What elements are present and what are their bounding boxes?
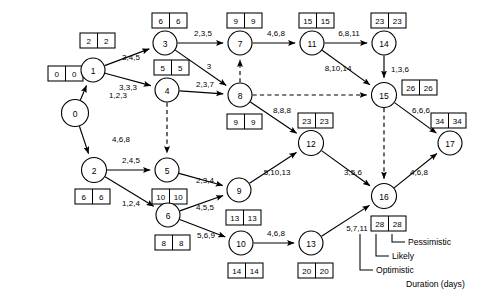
edge-label: 1,3,6 xyxy=(391,65,409,74)
node-label: 0 xyxy=(73,109,78,119)
edge-label: 2,3,4 xyxy=(196,176,214,185)
earliest-time: 2 xyxy=(87,37,92,46)
earliest-time: 26 xyxy=(406,84,415,93)
node-11[interactable]: 11 xyxy=(300,31,324,55)
edge-label: 8,10,14 xyxy=(325,64,352,73)
node-label: 13 xyxy=(306,239,316,249)
node-6[interactable]: 6 xyxy=(156,203,180,227)
edge-label: 6,8,11 xyxy=(338,29,360,38)
time-box-node-12: 2323 xyxy=(298,113,333,128)
time-box-node-4: 55 xyxy=(154,60,189,75)
edge-label: 2,3,7 xyxy=(196,80,214,89)
pert-network-diagram: 1,2,34,6,83,4,53,3,32,3,532,3,78,8,84,6,… xyxy=(0,0,478,294)
node-label: 2 xyxy=(92,166,97,176)
node-label: 7 xyxy=(238,39,243,49)
earliest-time: 9 xyxy=(234,118,239,127)
edge-label: 3,3,3 xyxy=(119,83,137,92)
time-box-node-3: 66 xyxy=(152,13,187,28)
time-box-node-1: 22 xyxy=(80,33,115,48)
node-12[interactable]: 12 xyxy=(299,131,324,156)
time-box-node-13: 2020 xyxy=(298,263,333,278)
earliest-time: 5 xyxy=(161,64,166,73)
earliest-time: 6 xyxy=(82,193,87,202)
time-box-node-2: 66 xyxy=(75,189,110,204)
edge-label: 3 xyxy=(207,62,212,71)
edge-label: 2,3,5 xyxy=(194,29,212,38)
node-2[interactable]: 2 xyxy=(82,158,107,183)
latest-time: 34 xyxy=(453,117,462,126)
legend-leader-0 xyxy=(392,234,405,242)
edge-label: 8,8,8 xyxy=(273,106,291,115)
time-box-node-14: 2323 xyxy=(371,13,406,28)
node-13[interactable]: 13 xyxy=(299,231,323,255)
edge-label: 2,4,5 xyxy=(122,156,140,165)
node-16[interactable]: 16 xyxy=(372,184,397,209)
edge-4-to-8: 2,3,7 xyxy=(179,80,223,94)
edge-11-to-15: 8,10,14 xyxy=(322,50,370,85)
time-box-node-7: 99 xyxy=(227,13,262,28)
node-label: 16 xyxy=(379,192,389,202)
edge-label: 4,6,8 xyxy=(267,229,285,238)
edge-label: 4,6,8 xyxy=(410,168,428,177)
edge-label: 3,4,5 xyxy=(122,53,140,62)
node-14[interactable]: 14 xyxy=(372,31,396,55)
node-10[interactable]: 10 xyxy=(229,231,253,255)
edge-label: 6,6,6 xyxy=(412,106,430,115)
latest-time: 15 xyxy=(321,17,330,26)
activity-line xyxy=(179,91,223,94)
node-5[interactable]: 5 xyxy=(155,158,179,182)
latest-time: 9 xyxy=(251,17,256,26)
node-1[interactable]: 1 xyxy=(81,58,105,82)
edge-1-to-4: 3,3,3 xyxy=(105,73,151,91)
legend: PessimisticLikelyOptimisticDuration (day… xyxy=(360,234,465,289)
earliest-time: 13 xyxy=(230,214,239,223)
node-0[interactable]: 0 xyxy=(62,100,89,127)
edge-label: 1,2,3 xyxy=(109,91,127,100)
node-label: 3 xyxy=(163,39,168,49)
edge-label: 5,7,11 xyxy=(346,224,368,233)
node-label: 15 xyxy=(379,91,389,101)
node-15[interactable]: 15 xyxy=(372,83,397,108)
node-label: 14 xyxy=(379,39,389,49)
edge-label: 4,6,8 xyxy=(267,29,285,38)
earliest-time: 8 xyxy=(162,239,167,248)
node-label: 10 xyxy=(236,239,246,249)
legend-item-label: Likely xyxy=(392,251,415,261)
node-label: 1 xyxy=(91,66,96,76)
edge-label: 5,10,13 xyxy=(264,168,291,177)
edge-7-to-11: 4,6,8 xyxy=(253,29,296,44)
node-9[interactable]: 9 xyxy=(227,178,251,202)
edge-10-to-13: 4,6,8 xyxy=(254,229,295,244)
edge-16-to-17: 4,6,8 xyxy=(394,154,437,188)
node-label: 6 xyxy=(166,211,171,221)
edge-11-to-14: 6,8,11 xyxy=(325,29,368,44)
edge-13-to-16: 5,7,11 xyxy=(322,205,370,236)
edge-label: 4,5,5 xyxy=(196,203,214,212)
node-7[interactable]: 7 xyxy=(228,31,252,55)
node-label: 12 xyxy=(306,139,316,149)
node-label: 9 xyxy=(237,186,242,196)
legend-item-label: Optimistic xyxy=(376,265,414,275)
latest-time: 13 xyxy=(248,214,257,223)
edge-2-to-5: 2,4,5 xyxy=(107,156,150,171)
node-8[interactable]: 8 xyxy=(228,83,252,107)
latest-time: 20 xyxy=(320,267,329,276)
node-17[interactable]: 17 xyxy=(438,131,462,155)
node-label: 11 xyxy=(308,39,317,49)
node-3[interactable]: 3 xyxy=(153,31,177,55)
latest-time: 14 xyxy=(250,267,259,276)
time-box-node-10: 1414 xyxy=(228,263,263,278)
node-4[interactable]: 4 xyxy=(155,78,179,102)
edge-label: 5,6,9 xyxy=(197,231,215,240)
network-canvas: 1,2,34,6,83,4,53,3,32,3,532,3,78,8,84,6,… xyxy=(0,0,478,294)
earliest-time: 9 xyxy=(234,17,239,26)
edge-14-to-15: 1,3,6 xyxy=(384,56,409,78)
edge-9-to-12: 5,10,13 xyxy=(249,152,296,183)
latest-time: 5 xyxy=(178,64,183,73)
time-box-node-15: 2626 xyxy=(402,80,437,95)
edge-12-to-16: 3,5,6 xyxy=(322,151,370,186)
latest-time: 23 xyxy=(393,17,402,26)
edge-label: 4,6,8 xyxy=(112,135,130,144)
legend-units: Duration (days) xyxy=(406,279,465,289)
legend-item-label: Pessimistic xyxy=(408,237,452,247)
